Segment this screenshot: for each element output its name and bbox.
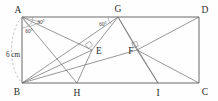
segment-f-d (137, 17, 199, 50)
angle-label-a-lower: 60° (25, 28, 32, 34)
dimension-label-ab: 6 cm (6, 51, 21, 59)
angle-arc-a-upper (31, 17, 34, 24)
segment-f-i (137, 50, 158, 83)
geometry-canvas: A D B C G E F H I 30° 60° 60° 6 cm (0, 0, 218, 101)
angle-label-a-upper: 30° (37, 19, 44, 25)
geometry-figure: A D B C G E F H I 30° 60° 60° 6 cm (0, 0, 218, 101)
dimension-arc-ab (12, 17, 23, 83)
vertex-label-c: C (202, 87, 208, 97)
vertex-label-h: H (74, 88, 81, 98)
segment-b-e (22, 50, 92, 83)
vertex-label-i: I (156, 88, 159, 98)
vertex-label-a: A (15, 5, 22, 15)
vertex-label-g: G (115, 4, 122, 14)
segment-f-c (137, 50, 199, 83)
segment-a-h (22, 17, 77, 83)
construction-lines (22, 17, 199, 83)
angle-label-g-left: 60° (99, 21, 106, 27)
dimension-arc-path (12, 17, 23, 83)
vertex-label-d: D (202, 5, 209, 15)
vertex-label-f: F (128, 46, 133, 56)
vertex-label-e: E (96, 46, 102, 56)
vertex-label-b: B (14, 87, 20, 97)
